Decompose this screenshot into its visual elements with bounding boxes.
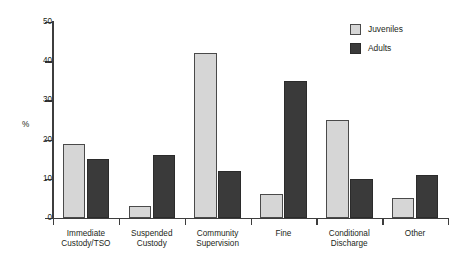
category-label: ConditionalDischarge bbox=[316, 229, 382, 250]
y-tick-label: 20 bbox=[22, 136, 52, 144]
x-tick-mark bbox=[382, 218, 383, 225]
y-tick-label: 10 bbox=[22, 175, 52, 183]
category-label-line: Fine bbox=[251, 229, 317, 239]
category-label: ImmediateCustody/TSO bbox=[53, 229, 119, 250]
category-label-line: Supervision bbox=[185, 239, 251, 249]
legend-swatch-icon-adults bbox=[350, 43, 361, 54]
legend-item-juveniles: Juveniles bbox=[350, 22, 403, 37]
legend-swatch-icon-juveniles bbox=[350, 24, 361, 35]
bar-juveniles bbox=[63, 144, 86, 218]
bar-juveniles bbox=[326, 120, 349, 218]
category-label-line: Conditional bbox=[316, 229, 382, 239]
bar-adults bbox=[284, 81, 307, 218]
x-tick-mark bbox=[251, 218, 252, 225]
category-label: Other bbox=[382, 229, 448, 239]
bar-adults bbox=[416, 175, 439, 218]
y-axis-title: % bbox=[22, 120, 29, 129]
x-tick-mark bbox=[448, 218, 449, 225]
category-label-line: Discharge bbox=[316, 239, 382, 249]
category-label-line: Community bbox=[185, 229, 251, 239]
bar-adults bbox=[153, 155, 176, 218]
x-tick-mark bbox=[316, 218, 317, 225]
category-label-line: Custody bbox=[119, 239, 185, 249]
y-tick-label: 40 bbox=[22, 57, 52, 65]
category-label: CommunitySupervision bbox=[185, 229, 251, 250]
y-tick-label: 0 bbox=[22, 214, 52, 222]
category-label-line: Other bbox=[382, 229, 448, 239]
category-label: SuspendedCustody bbox=[119, 229, 185, 250]
x-tick-mark bbox=[119, 218, 120, 225]
bar-chart: % 01020304050 ImmediateCustody/TSOSuspen… bbox=[0, 0, 464, 266]
bar-adults bbox=[87, 159, 110, 218]
bar-adults bbox=[350, 179, 373, 218]
chart-legend: Juveniles Adults bbox=[350, 22, 403, 60]
legend-label-juveniles: Juveniles bbox=[368, 25, 403, 34]
bar-juveniles bbox=[194, 53, 217, 218]
category-label-line: Suspended bbox=[119, 229, 185, 239]
category-label-line: Immediate bbox=[53, 229, 119, 239]
category-label: Fine bbox=[251, 229, 317, 239]
bar-juveniles bbox=[129, 206, 152, 218]
x-tick-mark bbox=[185, 218, 186, 225]
bar-adults bbox=[218, 171, 241, 218]
bar-juveniles bbox=[392, 198, 415, 218]
bar-juveniles bbox=[260, 194, 283, 218]
legend-item-adults: Adults bbox=[350, 41, 403, 56]
category-label-line: Custody/TSO bbox=[53, 239, 119, 249]
legend-label-adults: Adults bbox=[368, 44, 391, 53]
x-tick-mark bbox=[53, 218, 54, 225]
y-tick-label: 50 bbox=[22, 18, 52, 26]
y-tick-label: 30 bbox=[22, 96, 52, 104]
